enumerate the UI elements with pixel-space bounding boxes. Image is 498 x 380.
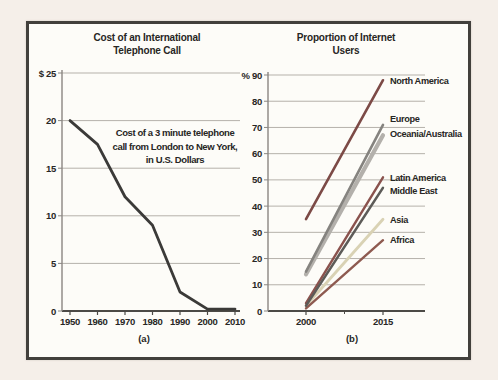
chart-b-series-label-europe: Europe [390, 114, 420, 124]
chart-b-y-tick-label: 0 [257, 306, 262, 317]
chart-b-series-label-africa: Africa [390, 235, 415, 245]
chart-b-y-tick-label: 20 [252, 253, 262, 264]
chart-a-x-tick-label: 1980 [143, 316, 163, 327]
chart-a-series-cost-of-a-3-minute-call-london-to-new-york [70, 121, 235, 309]
chart-b-series-label-middle-east: Middle East [390, 186, 437, 196]
figure-stage: Cost of an International Telephone Call … [0, 0, 498, 380]
chart-a-y-tick-label: 10 [46, 210, 56, 221]
chart-a-x-tick-label: 2000 [198, 316, 218, 327]
chart-a-x-tick-label: 1950 [60, 316, 80, 327]
chart-b-y-tick-label: 50 [252, 174, 262, 185]
chart-a-y-tick-label: 20 [46, 115, 56, 126]
chart-b-y-tick-label: 80 [252, 96, 262, 107]
chart-a-x-tick-label: 1960 [88, 316, 108, 327]
chart-a-y-tick-label: 15 [46, 163, 57, 174]
chart-a-x-tick-label: 2010 [225, 316, 245, 327]
chart-a-y-tick-label: 5 [51, 258, 57, 269]
chart-b-y-tick-label: 60 [252, 148, 262, 159]
chart-a-y-tick-label: $ 25 [39, 68, 57, 79]
chart-b-series-label-asia: Asia [390, 215, 409, 225]
chart-b-y-tick-label: % 90 [242, 70, 262, 81]
chart-b-y-tick-label: 70 [252, 122, 262, 133]
chart-b-x-tick-label: 2000 [296, 316, 316, 327]
chart-b-series-label-latin-america: Latin America [390, 173, 447, 183]
chart-b-series-label-oceania-australia: Oceania/Australia [390, 129, 463, 139]
charts-canvas: $ 25201510501950196019701980199020002010… [0, 0, 498, 380]
chart-a-y-tick-label: 0 [51, 306, 56, 317]
chart-b-x-tick-label: 2015 [373, 316, 394, 327]
chart-b-series-label-north-america: North America [390, 76, 450, 86]
chart-b-y-tick-label: 40 [252, 201, 262, 212]
chart-a-x-tick-label: 1990 [170, 316, 190, 327]
chart-b-y-tick-label: 30 [252, 227, 262, 238]
chart-a-x-tick-label: 1970 [115, 316, 135, 327]
chart-b-y-tick-label: 10 [252, 279, 262, 290]
